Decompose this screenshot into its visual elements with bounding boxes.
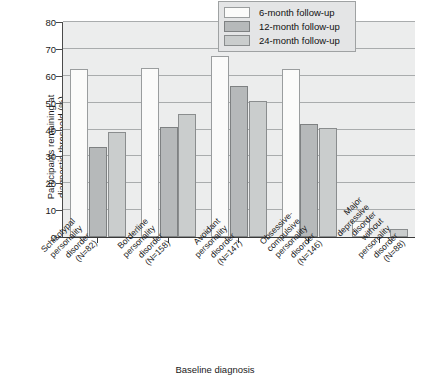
legend-item-12-month: 12-month follow-up xyxy=(224,20,350,33)
bar xyxy=(141,68,159,237)
y-tick-label: 20 xyxy=(16,178,56,189)
y-tick-label: 10 xyxy=(16,205,56,216)
bar xyxy=(230,86,248,237)
bar xyxy=(108,132,126,237)
legend-label-6-month: 6-month follow-up xyxy=(259,7,335,18)
bar xyxy=(178,114,196,237)
bar xyxy=(160,127,178,237)
y-tick-label: 40 xyxy=(16,124,56,135)
legend-swatch-icon-24-month xyxy=(224,35,250,46)
legend-item-6-month: 6-month follow-up xyxy=(224,6,350,19)
legend-swatch-icon-12-month xyxy=(224,21,250,32)
y-tick-label: 50 xyxy=(16,97,56,108)
y-tick-label: 30 xyxy=(16,151,56,162)
bar xyxy=(70,69,88,237)
bar-chart-figure: Participants remaining at diagnostic thr… xyxy=(0,0,430,385)
y-tick-label: 70 xyxy=(16,43,56,54)
bar xyxy=(300,124,318,237)
x-tick-mark xyxy=(97,238,98,243)
legend: 6-month follow-up 12-month follow-up 24-… xyxy=(218,1,356,52)
legend-label-12-month: 12-month follow-up xyxy=(259,21,340,32)
y-tick-label: 80 xyxy=(16,17,56,28)
bar xyxy=(211,56,229,237)
bar xyxy=(249,101,267,237)
legend-item-24-month: 24-month follow-up xyxy=(224,34,350,47)
bar xyxy=(89,147,107,237)
gridline xyxy=(63,75,415,76)
y-tick-label: 60 xyxy=(16,70,56,81)
legend-label-24-month: 24-month follow-up xyxy=(259,35,340,46)
legend-swatch-icon-6-month xyxy=(224,7,250,18)
x-axis-title: Baseline diagnosis xyxy=(0,364,430,375)
